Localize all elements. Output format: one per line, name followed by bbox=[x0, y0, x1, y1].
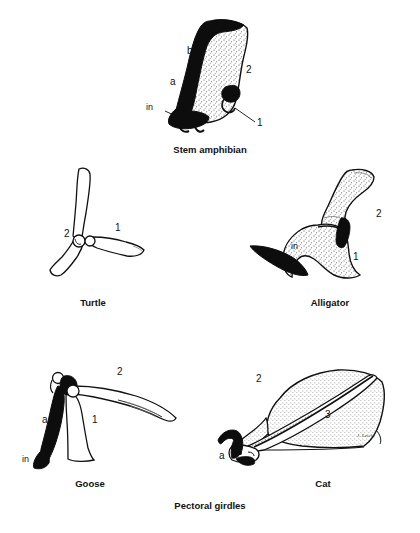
turtle-glenoid bbox=[73, 235, 85, 247]
turtle-scapular-process bbox=[73, 168, 90, 238]
label-alligator-in: in bbox=[291, 242, 298, 251]
label-stem-amphibian-2: 2 bbox=[246, 65, 252, 75]
label-cat-a: a bbox=[219, 451, 225, 461]
label-turtle-2: 2 bbox=[64, 229, 70, 239]
turtle-coracoid bbox=[89, 237, 144, 256]
cat-drawing bbox=[218, 362, 393, 474]
label-stem-amphibian-b: b bbox=[187, 46, 193, 56]
label-stem-amphibian-1: 1 bbox=[257, 118, 263, 128]
goose-clavicle-neck bbox=[51, 380, 53, 393]
cat-glenoid-black bbox=[236, 457, 255, 466]
turtle-glenoid-facet bbox=[85, 236, 95, 246]
label-cat-3: 3 bbox=[325, 410, 331, 420]
goose-head-facet bbox=[67, 385, 79, 397]
specimen-cat: 2 3 a J. Leicht bbox=[218, 362, 393, 474]
label-cat-2: 2 bbox=[256, 374, 262, 384]
alligator-drawing bbox=[248, 165, 388, 285]
label-goose-1: 1 bbox=[92, 415, 98, 425]
label-alligator-2: 2 bbox=[376, 209, 382, 219]
figure-caption: Pectoral girdles bbox=[0, 500, 420, 511]
specimen-alligator: 2 in 1 bbox=[248, 165, 388, 285]
caption-cat: Cat bbox=[283, 478, 363, 489]
label-goose-a: a bbox=[42, 415, 48, 425]
caption-turtle: Turtle bbox=[38, 297, 148, 308]
label-stem-amphibian-a: a bbox=[170, 77, 176, 87]
turtle-drawing bbox=[48, 165, 158, 285]
label-stem-amphibian-in: in bbox=[146, 103, 153, 112]
specimen-stem-amphibian: b a in 2 1 bbox=[143, 14, 273, 139]
caption-alligator: Alligator bbox=[275, 297, 385, 308]
goose-interclavicle bbox=[33, 451, 49, 469]
label-turtle-1: 1 bbox=[115, 223, 121, 233]
pectoral-girdles-figure: b a in 2 1 Stem amphibian 2 1 Turtle bbox=[0, 0, 420, 533]
specimen-goose: 2 a 1 in bbox=[22, 360, 192, 475]
caption-goose: Goose bbox=[35, 478, 145, 489]
caption-stem-amphibian: Stem amphibian bbox=[0, 144, 420, 155]
label-goose-in: in bbox=[22, 455, 29, 464]
specimen-turtle: 2 1 bbox=[48, 165, 158, 285]
cat-caudal-angle bbox=[376, 430, 381, 444]
label-goose-2: 2 bbox=[117, 367, 123, 377]
stem-amphibian-drawing bbox=[143, 14, 273, 139]
illustrator-signature: J. Leicht bbox=[357, 433, 375, 438]
label-alligator-1: 1 bbox=[353, 252, 359, 262]
stem-amphibian-leader-1 bbox=[235, 108, 255, 122]
goose-coracoid bbox=[66, 391, 94, 461]
